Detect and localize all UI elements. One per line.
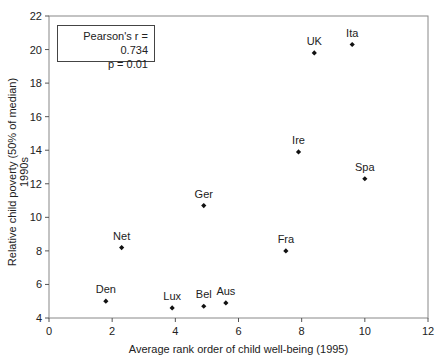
x-axis: 024681012 — [46, 318, 434, 337]
x-axis-title: Average rank order of child well-being (… — [49, 343, 428, 355]
correlation-annotation: Pearson's r = 0.734 p = 0.01 — [57, 25, 155, 62]
point-label: UK — [307, 35, 323, 47]
pearson-r: Pearson's r = 0.734 — [58, 29, 148, 57]
point-label: Fra — [278, 233, 295, 245]
point-label: Spa — [355, 161, 375, 173]
y-tick-label: 12 — [30, 178, 42, 190]
point-label: Aus — [216, 285, 235, 297]
x-tick-label: 10 — [359, 325, 371, 337]
y-tick-label: 22 — [30, 10, 42, 22]
point-label: Lux — [163, 290, 181, 302]
y-tick-label: 8 — [36, 245, 42, 257]
y-tick-label: 6 — [36, 278, 42, 290]
point-label: Ire — [292, 134, 305, 146]
point-label: Den — [96, 283, 116, 295]
point-label: Bel — [196, 288, 212, 300]
y-axis-title: Relative child poverty (50% of median) 1… — [6, 72, 30, 272]
point-label: Ita — [346, 27, 359, 39]
x-tick-label: 8 — [299, 325, 305, 337]
x-tick-label: 12 — [422, 325, 434, 337]
point-label: Net — [113, 230, 130, 242]
y-tick-label: 20 — [30, 44, 42, 56]
x-tick-label: 4 — [172, 325, 178, 337]
x-tick-label: 2 — [109, 325, 115, 337]
y-tick-label: 16 — [30, 111, 42, 123]
y-tick-label: 10 — [30, 211, 42, 223]
x-tick-label: 6 — [235, 325, 241, 337]
p-value: p = 0.01 — [58, 57, 148, 71]
y-axis: 46810121416182022 — [30, 10, 49, 324]
y-tick-label: 14 — [30, 144, 42, 156]
x-tick-label: 0 — [46, 325, 52, 337]
point-label: Ger — [195, 188, 214, 200]
y-tick-label: 18 — [30, 77, 42, 89]
y-tick-label: 4 — [36, 312, 42, 324]
